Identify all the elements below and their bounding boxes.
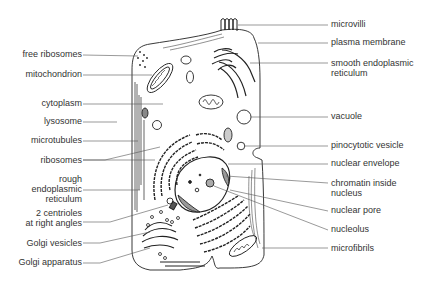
plasma-membrane-outline (132, 29, 264, 270)
label-ribosomes: ribosomes (40, 156, 82, 165)
label-microfibrils: microfibrils (331, 244, 374, 253)
label-centrioles: 2 centrioles at right angles (25, 208, 82, 228)
label-nuclear-pore: nuclear pore (331, 206, 381, 215)
label-free-ribosomes: free ribosomes (22, 50, 82, 59)
label-nucleolus: nucleolus (331, 225, 369, 234)
label-microtubules: microtubules (31, 136, 82, 145)
microtubules-shape (135, 82, 144, 212)
nucleolus-shape (206, 179, 214, 187)
vacuole-shape (237, 110, 251, 124)
label-chromatin: chromatin inside nucleus (331, 178, 397, 198)
label-microvilli: microvilli (331, 20, 366, 29)
mitochondrion-shape (143, 60, 177, 97)
pinocytotic-vesicle-shape (237, 142, 245, 150)
leader-lines-left (83, 55, 168, 263)
label-rough-er: rough endoplasmic reticulum (31, 174, 82, 204)
label-vacuole: vacuole (331, 112, 362, 121)
centrioles-shape (169, 201, 177, 210)
label-plasma-membrane: plasma membrane (331, 38, 406, 47)
label-golgi-apparatus: Golgi apparatus (18, 258, 82, 267)
label-golgi-vesicles: Golgi vesicles (26, 239, 82, 248)
label-cytoplasm: cytoplasm (41, 99, 82, 108)
rough-er-shape (154, 134, 250, 252)
label-mitochondrion: mitochondrion (25, 70, 82, 79)
label-nuclear-envelope: nuclear envelope (331, 159, 400, 168)
cell-diagram: free ribosomes mitochondrion cytoplasm l… (0, 0, 434, 286)
label-pinocytotic-vesicle: pinocytotic vesicle (331, 141, 404, 150)
smooth-er-shape (212, 49, 255, 98)
free-ribosomes-dots (137, 51, 148, 68)
label-smooth-er: smooth endoplasmic reticulum (331, 58, 414, 78)
label-lysosome: lysosome (44, 117, 82, 126)
mitochondrion-center (199, 95, 223, 109)
